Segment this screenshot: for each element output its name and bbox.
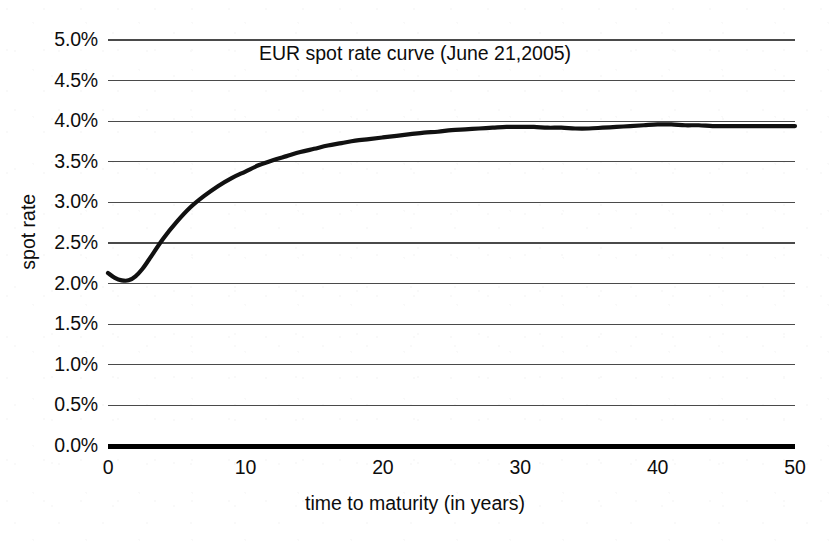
y-tick-label: 0.5%	[54, 395, 98, 415]
chart-figure: EUR spot rate curve (June 21,2005) spot …	[0, 0, 830, 541]
spot-rate-curve	[108, 40, 795, 446]
x-axis-title: time to maturity (in years)	[0, 494, 830, 514]
x-tick-label: 0	[103, 458, 114, 478]
y-tick-label: 4.5%	[54, 71, 98, 91]
y-tick-label: 4.0%	[54, 111, 98, 131]
y-tick-label: 2.5%	[54, 233, 98, 253]
y-tick-label: 5.0%	[54, 30, 98, 50]
y-tick-label: 1.0%	[54, 355, 98, 375]
y-tick-label: 0.0%	[54, 436, 98, 456]
plot-area	[108, 40, 795, 446]
y-tick-label: 1.5%	[54, 314, 98, 334]
x-tick-label: 50	[784, 458, 805, 478]
y-tick-label: 3.0%	[54, 192, 98, 212]
x-tick-label: 10	[235, 458, 256, 478]
y-tick-label: 3.5%	[54, 152, 98, 172]
x-tick-label: 20	[372, 458, 393, 478]
y-tick-label: 2.0%	[54, 274, 98, 294]
x-tick-label: 40	[647, 458, 668, 478]
series-line-0	[108, 124, 795, 280]
x-axis-tick-labels: 01020304050	[0, 458, 830, 484]
x-tick-label: 30	[510, 458, 531, 478]
